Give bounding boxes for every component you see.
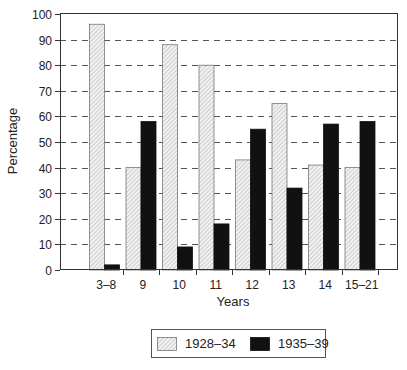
y-tick-label: 80 [39,59,53,73]
legend-label: 1928–34 [185,336,236,351]
x-tick-label: 9 [139,278,146,292]
bar-series-1928-34 [90,24,105,270]
x-tick-label: 12 [246,278,260,292]
x-tick-label: 10 [173,278,187,292]
y-tick-label: 70 [39,85,53,99]
legend-label: 1935–39 [278,336,329,351]
y-tick-label: 20 [39,213,53,227]
y-tick-label: 60 [39,110,53,124]
y-tick-label: 50 [39,136,53,150]
y-tick-label: 40 [39,162,53,176]
bar-series-1928-34 [236,160,251,270]
x-axis-title: Years [217,294,250,309]
bar-series-1935-39 [214,224,229,270]
x-tick-label: 14 [319,278,333,292]
y-tick-label: 90 [39,34,53,48]
bar-series-1928-34 [199,65,214,270]
x-tick-label: 15–21 [345,278,379,292]
y-axis: 0102030405060708090100 [32,8,60,278]
y-tick-label: 100 [32,8,52,22]
bar-series-1935-39 [287,188,302,270]
bar-series-1928-34 [126,168,141,270]
y-tick-label: 10 [39,238,53,252]
bar-series-1935-39 [360,122,375,270]
bar-series-1928-34 [163,45,178,270]
bar-series-1935-39 [141,122,156,270]
bar-series-1935-39 [324,124,339,270]
bars [90,24,376,270]
x-tick-label: 11 [210,278,223,292]
x-axis: 3–89101112131415–21 [96,270,379,292]
y-axis-title: Percentage [5,108,20,175]
bar-series-1935-39 [178,247,193,270]
x-tick-label: 13 [282,278,296,292]
bar-chart: 0102030405060708090100 3–89101112131415–… [0,0,407,370]
bar-series-1928-34 [309,165,324,270]
x-tick-label: 3–8 [96,278,116,292]
legend-swatch-1935-39 [251,338,270,351]
bar-series-1935-39 [251,129,266,270]
bar-series-1928-34 [345,168,360,270]
y-tick-label: 30 [39,187,53,201]
y-tick-label: 0 [45,264,52,278]
legend-swatch-1928-34 [158,338,177,351]
bar-series-1928-34 [272,104,287,270]
legend: 1928–341935–39 [152,330,329,358]
